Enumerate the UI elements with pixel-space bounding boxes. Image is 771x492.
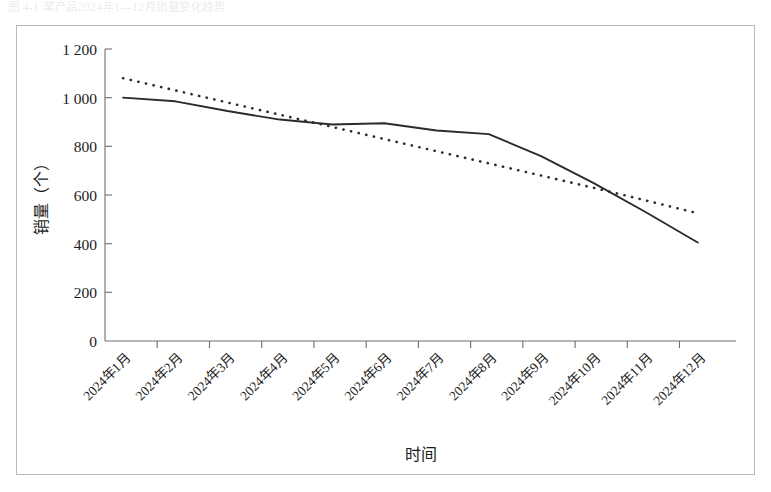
x-tick-label: 2024年11月 [598,351,655,408]
y-tick-label: 1 200 [62,41,97,58]
y-tick-label: 200 [74,284,98,301]
x-tick-label: 2024年2月 [133,351,186,404]
line-chart: 1 200 1 000 800 600 400 200 0 销量（个） [17,26,756,476]
y-tick-marks [105,49,112,292]
x-tick-label: 2024年10月 [546,351,604,409]
x-tick-label: 2024年4月 [237,351,290,404]
chart-page: 图 4-1 某产品2024年1—12月销量变化趋势 [0,0,771,492]
x-tick-labels: 2024年1月 2024年2月 2024年3月 2024年4月 2024年5月 … [80,351,708,409]
figure-frame: 1 200 1 000 800 600 400 200 0 销量（个） [16,25,755,475]
x-tick-marks [157,341,679,348]
x-tick-label: 2024年12月 [650,351,708,409]
y-tick-label: 1 000 [62,90,97,107]
plot-area: 1 200 1 000 800 600 400 200 0 销量（个） [17,26,756,476]
y-axis-title: 销量（个） [33,155,50,235]
x-tick-label: 2024年1月 [80,351,133,404]
y-tick-labels: 1 200 1 000 800 600 400 200 0 [62,41,97,350]
x-tick-label: 2024年8月 [446,351,499,404]
y-tick-label: 400 [74,236,98,253]
x-tick-label: 2024年5月 [289,351,342,404]
x-axis-title: 时间 [405,446,437,463]
page-top-text-fragment: 图 4-1 某产品2024年1—12月销量变化趋势 [8,0,608,14]
y-tick-label: 600 [74,187,98,204]
x-tick-label: 2024年6月 [342,351,395,404]
sales-line-series [123,98,698,243]
x-tick-label: 2024年7月 [394,351,447,404]
y-tick-label: 0 [89,333,97,350]
y-tick-label: 800 [74,138,98,155]
x-tick-label: 2024年3月 [185,351,238,404]
x-tick-label: 2024年9月 [498,351,551,404]
